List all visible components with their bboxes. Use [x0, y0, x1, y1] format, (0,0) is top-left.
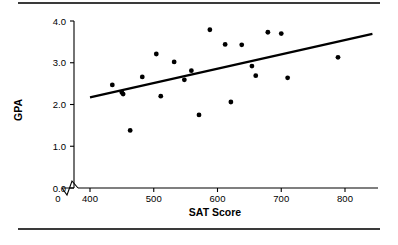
data-point — [110, 82, 115, 87]
scatter-plot-svg: GPA SAT Score 0.01.02.03.04.0 0400500600… — [0, 0, 398, 245]
x-axis-ticks: 0400500600700800 — [55, 188, 353, 204]
data-point — [154, 52, 159, 57]
y-tick-label: 3.0 — [53, 57, 66, 68]
data-points-group — [110, 27, 340, 132]
data-point — [285, 75, 290, 80]
data-point — [189, 68, 194, 73]
data-point — [223, 42, 228, 47]
data-point — [158, 94, 163, 99]
x-tick-label: 0 — [55, 193, 60, 204]
data-point — [121, 92, 126, 97]
data-point — [239, 42, 244, 47]
x-axis-title: SAT Score — [189, 206, 241, 218]
x-tick-label: 800 — [337, 193, 353, 204]
top-divider-rule — [18, 2, 380, 4]
figure-container: GPA SAT Score 0.01.02.03.04.0 0400500600… — [0, 0, 398, 245]
data-point — [140, 75, 145, 80]
data-point — [265, 30, 270, 35]
data-point — [207, 27, 212, 32]
x-tick-label: 400 — [82, 193, 98, 204]
y-axis-title: GPA — [12, 99, 24, 121]
data-point — [172, 60, 177, 65]
data-point — [128, 128, 133, 133]
data-point — [228, 100, 233, 105]
bottom-divider-rule — [18, 228, 380, 230]
data-point — [336, 55, 341, 60]
data-point — [197, 113, 202, 118]
x-tick-label: 700 — [273, 193, 289, 204]
data-point — [279, 31, 284, 36]
x-tick-label: 600 — [210, 193, 226, 204]
y-tick-label: 2.0 — [53, 99, 66, 110]
data-point — [250, 64, 255, 69]
data-point — [253, 73, 258, 78]
x-tick-label: 500 — [146, 193, 162, 204]
regression-line — [90, 34, 372, 97]
y-tick-label: 4.0 — [53, 16, 66, 27]
y-tick-label: 1.0 — [53, 141, 66, 152]
y-axis-ticks: 0.01.02.03.04.0 — [53, 16, 74, 194]
data-point — [182, 77, 187, 82]
